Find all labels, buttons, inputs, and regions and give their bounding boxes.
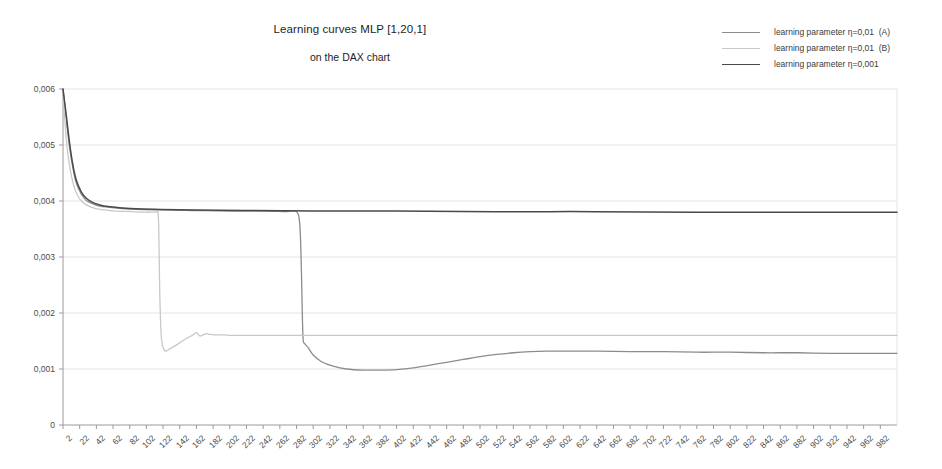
series-line-2: [63, 89, 897, 212]
legend-item[interactable]: learning parameter η=0,01 (B): [722, 40, 937, 56]
y-axis-label: 0,005: [0, 140, 55, 150]
y-axis-label: 0,003: [0, 252, 55, 262]
legend-swatch-line-icon: [722, 64, 760, 65]
legend-label: learning parameter η=0,01 (B): [774, 43, 890, 53]
series-line-0: [63, 89, 897, 370]
legend-item[interactable]: learning parameter η=0,01 (A): [722, 24, 937, 40]
series-line-1: [63, 92, 897, 351]
y-axis-label: 0: [0, 420, 55, 430]
y-axis-label: 0,001: [0, 364, 55, 374]
y-axis-label: 0,004: [0, 196, 55, 206]
chart-legend: learning parameter η=0,01 (A)learning pa…: [722, 24, 937, 72]
legend-label: learning parameter η=0,001: [774, 59, 879, 69]
y-axis-label: 0,006: [0, 84, 55, 94]
legend-swatch-line-icon: [722, 32, 760, 33]
legend-label: learning parameter η=0,01 (A): [774, 27, 890, 37]
legend-item[interactable]: learning parameter η=0,001: [722, 56, 937, 72]
chart-container: Learning curves MLP [1,20,1] on the DAX …: [0, 0, 942, 469]
y-axis-label: 0,002: [0, 308, 55, 318]
legend-swatch-line-icon: [722, 48, 760, 49]
